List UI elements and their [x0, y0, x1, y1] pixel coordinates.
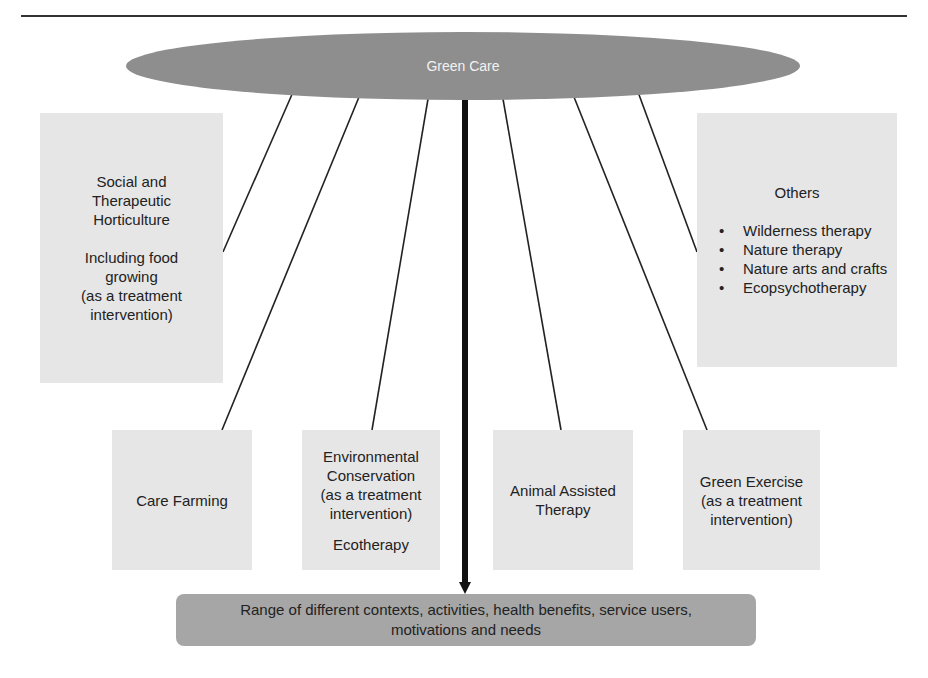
node-animal-assisted-therapy: Animal Assisted Therapy: [493, 430, 633, 570]
node-others: Others Wilderness therapy Nature therapy…: [697, 113, 897, 367]
node-title-line: Horticulture: [93, 210, 170, 229]
list-item: Wilderness therapy: [719, 221, 887, 240]
node-subtitle-line: (as a treatment: [81, 286, 182, 305]
node-title-line: Environmental: [323, 447, 419, 466]
node-subtitle-line: Including food: [85, 248, 178, 267]
connector-horticulture: [223, 92, 293, 252]
outcome-line: motivations and needs: [240, 620, 692, 640]
others-list: Wilderness therapy Nature therapy Nature…: [719, 221, 887, 297]
node-title-line: (as a treatment: [321, 485, 422, 504]
node-title-line: Others: [774, 183, 819, 202]
node-title-line: Care Farming: [136, 491, 228, 510]
node-horticulture: Social and Therapeutic Horticulture Incl…: [40, 113, 223, 383]
node-title-line: Green Exercise: [700, 472, 803, 491]
node-subtitle-line: growing: [105, 267, 158, 286]
main-arrow-head: [459, 582, 471, 594]
root-label: Green Care: [426, 58, 499, 74]
connector-others: [638, 92, 697, 252]
node-environmental-conservation: Environmental Conservation (as a treatme…: [302, 430, 440, 570]
node-title-line: (as a treatment: [701, 491, 802, 510]
connector-environmental-conservation: [372, 99, 428, 430]
node-title-line: Therapeutic: [92, 191, 171, 210]
node-title-line: intervention): [710, 510, 793, 529]
outcome-line: Range of different contexts, activities,…: [240, 600, 692, 620]
node-care-farming: Care Farming: [112, 430, 252, 570]
node-title-line: Animal Assisted: [510, 481, 616, 500]
node-title-line: Social and: [96, 172, 166, 191]
node-green-exercise: Green Exercise (as a treatment intervent…: [683, 430, 820, 570]
list-item: Ecopsychotherapy: [719, 278, 887, 297]
node-subtitle-line: intervention): [90, 305, 173, 324]
node-subtitle-line: Ecotherapy: [333, 535, 409, 554]
connector-animal-assisted-therapy: [503, 99, 561, 430]
list-item: Nature therapy: [719, 240, 887, 259]
node-title-line: intervention): [330, 504, 413, 523]
list-item: Nature arts and crafts: [719, 259, 887, 278]
node-title-line: Conservation: [327, 466, 415, 485]
connector-care-farming: [222, 97, 359, 430]
connector-green-exercise: [574, 97, 707, 430]
root-node-green-care: Green Care: [126, 32, 800, 100]
outcome-box: Range of different contexts, activities,…: [176, 594, 756, 646]
node-title-line: Therapy: [535, 500, 590, 519]
